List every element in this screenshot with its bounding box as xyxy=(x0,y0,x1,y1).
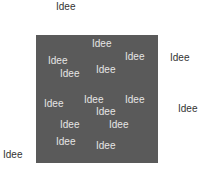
inner-word: Idee xyxy=(56,137,75,147)
inner-word: Idee xyxy=(92,39,111,49)
inner-word: Idee xyxy=(125,95,144,105)
inner-word: Idee xyxy=(60,120,79,130)
inner-word: Idee xyxy=(96,141,115,151)
inner-word: Idee xyxy=(96,65,115,75)
inner-word: Idee xyxy=(84,95,103,105)
inner-word: Idee xyxy=(96,107,115,117)
inner-word: Idee xyxy=(109,120,128,130)
outer-word: Idee xyxy=(170,53,189,63)
outer-word: Idee xyxy=(56,2,75,12)
inner-word: Idee xyxy=(44,99,63,109)
inner-word: Idee xyxy=(48,56,67,66)
inner-word: Idee xyxy=(60,69,79,79)
inner-word: Idee xyxy=(125,52,144,62)
outer-word: Idee xyxy=(3,150,22,160)
outer-word: Idee xyxy=(178,104,197,114)
